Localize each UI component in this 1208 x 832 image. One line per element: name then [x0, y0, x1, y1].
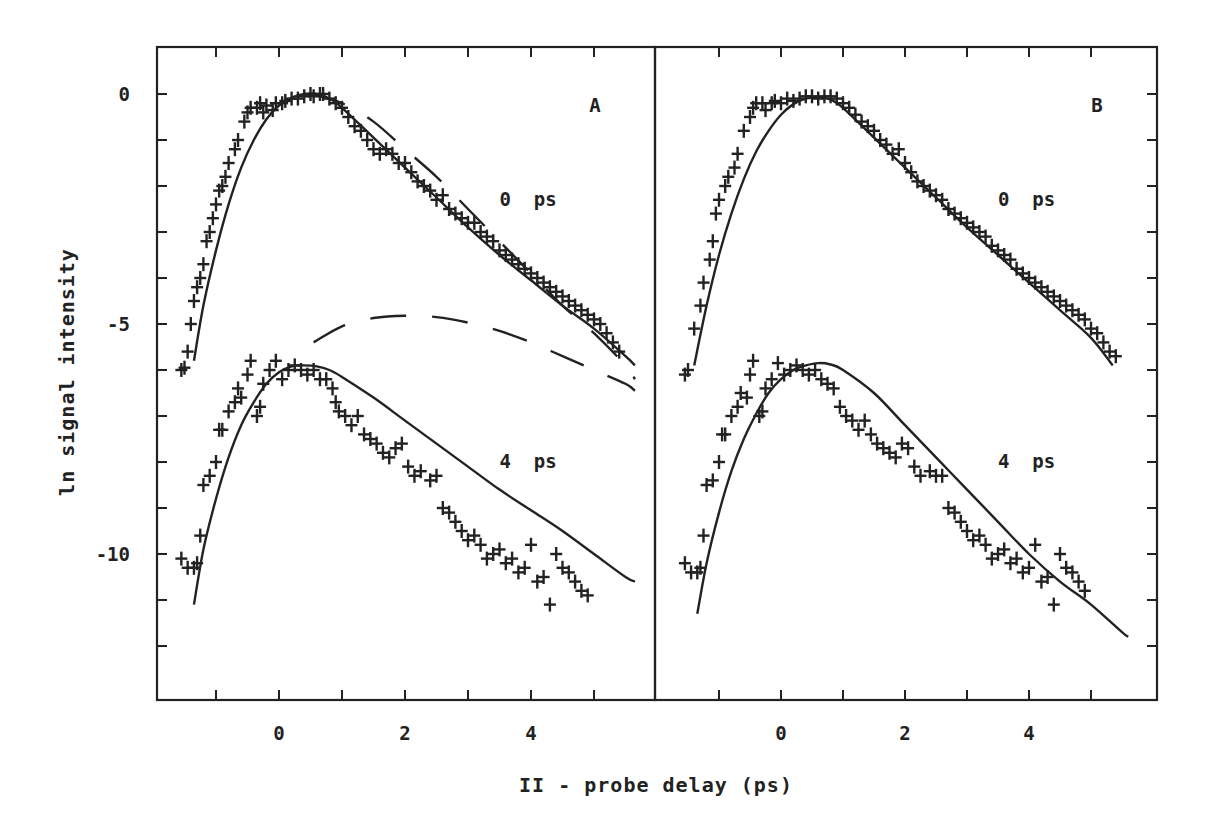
figure: A0 ps4 ps B0 ps4 ps 0-5-10024024 ln sign… [0, 0, 1208, 832]
x-tick-label: 4 [525, 722, 536, 744]
model-curve-dashed [311, 94, 635, 379]
curve-annotation: 0 ps [998, 188, 1055, 210]
panel-label: B [1091, 94, 1102, 116]
fit-curve [697, 363, 1128, 637]
fit-curve [694, 98, 1112, 366]
curve-annotation: 0 ps [500, 188, 557, 210]
x-tick-label: 0 [775, 722, 786, 744]
y-tick-label: -5 [107, 313, 130, 335]
x-axis-title: II - probe delay (ps) [519, 773, 793, 797]
panel-b-border [655, 47, 1157, 700]
x-tick-label: 2 [899, 722, 910, 744]
panel-a: A0 ps4 ps [175, 87, 635, 612]
data-markers [679, 89, 1122, 381]
x-tick-label: 4 [1023, 722, 1034, 744]
panel-label: A [589, 94, 601, 116]
data-markers [679, 354, 1091, 612]
data-markers [175, 87, 625, 377]
x-tick-label: 2 [399, 722, 410, 744]
y-tick-label: -10 [96, 543, 130, 565]
y-tick-label: 0 [119, 83, 130, 105]
y-axis-title: ln signal intensity [55, 248, 79, 496]
x-tick-label: 0 [273, 722, 284, 744]
fit-curve [194, 93, 635, 365]
panel-a-border [157, 47, 655, 700]
curve-annotation: 4 ps [998, 450, 1055, 472]
model-curve-dashed [314, 316, 635, 391]
data-markers [175, 354, 593, 612]
curve-annotation: 4 ps [500, 450, 557, 472]
panel-b: B0 ps4 ps [679, 89, 1128, 637]
